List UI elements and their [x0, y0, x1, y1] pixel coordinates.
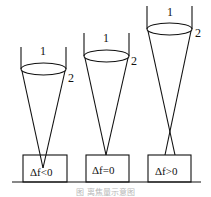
beam-label: 2	[68, 71, 74, 85]
lens-label: 1	[40, 44, 46, 58]
lens	[147, 23, 192, 35]
panel-positive-defocus	[147, 6, 192, 182]
lens	[21, 63, 66, 75]
beam-edge-right	[165, 31, 191, 155]
beam-edge-left	[22, 71, 43, 168]
beam-edge-right	[106, 58, 128, 155]
beam-label: 2	[131, 54, 137, 68]
lens	[84, 50, 129, 62]
defocus-diagram: 1 2 Δf<0 1 2 Δf=0 1 2 Δf>0 图 离焦量示意图	[0, 0, 211, 197]
lens-label: 1	[103, 31, 109, 45]
diagram-canvas: 1 2 Δf<0 1 2 Δf=0 1 2 Δf>0	[0, 0, 211, 197]
beam-edge-left	[148, 31, 175, 155]
lens-label: 1	[167, 5, 173, 19]
beam-edge-left	[85, 58, 106, 155]
defocus-condition: Δf<0	[30, 166, 53, 178]
defocus-condition: Δf=0	[92, 164, 115, 176]
panel-zero-defocus	[84, 33, 129, 182]
figure-caption: 图 离焦量示意图	[0, 186, 211, 197]
beam-edge-right	[43, 71, 65, 168]
defocus-condition: Δf>0	[155, 165, 178, 177]
panel-negative-defocus	[21, 47, 67, 182]
beam-label: 2	[195, 26, 201, 40]
